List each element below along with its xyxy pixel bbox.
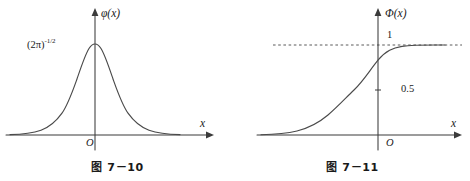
x-axis-label: x — [200, 118, 205, 130]
x-axis-arrow — [206, 132, 214, 139]
figure-board: φ(x) (2π)-1/2 O x 图 7－10 Φ(x) — [0, 0, 470, 181]
figure-caption: 图 7－11 — [235, 158, 470, 174]
origin-label: O — [386, 138, 394, 149]
normal-cdf-plot — [235, 0, 470, 155]
peak-value-label: (2π)-1/2 — [27, 38, 55, 50]
figure-normal-density: φ(x) (2π)-1/2 O x 图 7－10 — [0, 0, 235, 181]
peak-value-exponent: -1/2 — [45, 37, 56, 45]
x-axis-arrow — [454, 132, 462, 139]
cdf-curve — [261, 45, 445, 135]
y-axis-arrow — [92, 8, 99, 16]
asymptote-value-label: 1 — [387, 30, 392, 41]
y-axis-label: Φ(x) — [385, 8, 407, 20]
normal-density-plot — [0, 0, 235, 155]
figure-normal-cdf: Φ(x) 1 0.5 O x 图 7－11 — [235, 0, 470, 181]
origin-label: O — [86, 138, 94, 149]
y-axis-label: φ(x) — [101, 8, 120, 20]
x-axis-label: x — [451, 118, 456, 130]
y-axis-arrow — [375, 8, 382, 16]
peak-value-base: (2π) — [27, 39, 45, 50]
figure-caption: 图 7－10 — [0, 158, 235, 174]
midpoint-value-label: 0.5 — [401, 84, 414, 95]
